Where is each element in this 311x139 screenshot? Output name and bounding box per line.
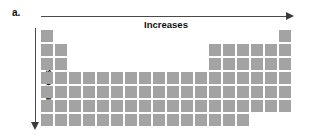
periodic-table-cell [167,72,179,84]
periodic-table-cell [69,100,81,112]
periodic-table-cell [181,114,193,126]
periodic-table-cell [83,72,95,84]
periodic-table-row [41,44,297,56]
periodic-table-cell [279,44,291,56]
periodic-table-cell [153,72,165,84]
periodic-table-cell [55,72,67,84]
periodic-table-cell [69,72,81,84]
periodic-table-cell [209,114,221,126]
periodic-table-cell [153,100,165,112]
periodic-table-row [41,114,297,126]
periodic-trend-figure: a. Increases Increases [0,0,311,139]
periodic-table-cell [125,114,137,126]
periodic-table-cell [83,100,95,112]
periodic-table-cell [251,86,263,98]
periodic-table-cell [279,58,291,70]
periodic-table-cell [265,100,277,112]
periodic-table-cell [279,30,291,42]
periodic-table-cell [237,72,249,84]
periodic-table-cell [111,72,123,84]
periodic-table-cell [265,44,277,56]
periodic-table-cell [195,100,207,112]
periodic-table-cell [41,114,53,126]
periodic-table-cell [237,100,249,112]
periodic-table-cell [55,58,67,70]
periodic-table-cell [251,72,263,84]
periodic-table-cell [223,72,235,84]
periodic-table-cell [251,58,263,70]
periodic-table-cell [153,114,165,126]
periodic-table-cell [265,86,277,98]
periodic-table-cell [55,86,67,98]
periodic-table-cell [139,114,151,126]
periodic-table-cell [265,58,277,70]
periodic-table-cell [125,72,137,84]
periodic-table-cell [111,114,123,126]
periodic-table-grid [41,30,297,130]
periodic-table-cell [209,100,221,112]
periodic-table-cell [223,58,235,70]
periodic-table-cell [195,114,207,126]
periodic-table-cell [181,100,193,112]
periodic-table-row [41,100,297,112]
periodic-table-cell [97,100,109,112]
periodic-table-cell [69,86,81,98]
horizontal-axis-label: Increases [41,19,291,30]
periodic-table-cell [111,86,123,98]
periodic-table-cell [97,86,109,98]
periodic-table-cell [237,114,249,126]
periodic-table-cell [41,100,53,112]
periodic-table-cell [111,100,123,112]
periodic-table-cell [55,114,67,126]
periodic-table-cell [209,72,221,84]
periodic-table-cell [279,72,291,84]
periodic-table-cell [223,44,235,56]
panel-label: a. [12,7,20,18]
periodic-table-cell [209,44,221,56]
periodic-table-cell [223,114,235,126]
periodic-table-cell [139,72,151,84]
periodic-table-cell [41,86,53,98]
periodic-table-cell [41,30,53,42]
periodic-table-row [41,58,297,70]
periodic-table-cell [251,100,263,112]
periodic-table-cell [83,86,95,98]
periodic-table-cell [265,72,277,84]
periodic-table-cell [55,44,67,56]
periodic-table-row [41,72,297,84]
periodic-table-cell [209,58,221,70]
periodic-table-cell [195,72,207,84]
periodic-table-cell [237,58,249,70]
periodic-table-cell [139,100,151,112]
periodic-table-row [41,86,297,98]
periodic-table-cell [167,114,179,126]
periodic-table-cell [41,44,53,56]
periodic-table-cell [41,72,53,84]
periodic-table-cell [125,100,137,112]
periodic-table-cell [167,86,179,98]
periodic-table-cell [167,100,179,112]
periodic-table-cell [181,86,193,98]
periodic-table-cell [83,114,95,126]
periodic-table-cell [279,100,291,112]
periodic-table-cell [97,114,109,126]
periodic-table-cell [69,114,81,126]
periodic-table-cell [41,58,53,70]
periodic-table-cell [153,86,165,98]
periodic-table-cell [251,44,263,56]
periodic-table-cell [223,100,235,112]
periodic-table-cell [125,86,137,98]
periodic-table-cell [181,72,193,84]
periodic-table-cell [97,72,109,84]
periodic-table-cell [209,86,221,98]
periodic-table-cell [55,100,67,112]
periodic-table-cell [279,86,291,98]
periodic-table-cell [195,86,207,98]
periodic-table-cell [237,44,249,56]
periodic-table-row [41,30,297,42]
periodic-table-cell [237,86,249,98]
horizontal-axis-line [41,16,288,17]
periodic-table-cell [139,86,151,98]
arrow-down-icon [31,122,39,130]
vertical-axis-line [35,28,36,124]
